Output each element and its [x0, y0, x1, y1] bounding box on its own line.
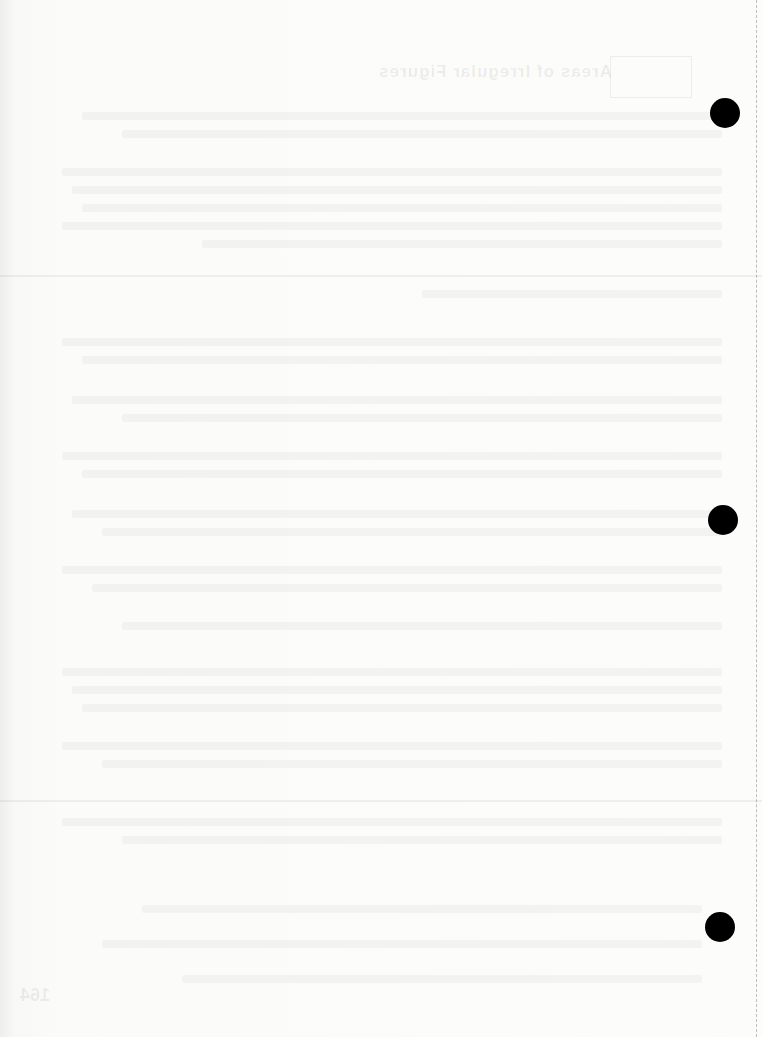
show-through-text-line — [72, 186, 722, 194]
page-edge-perforation — [756, 0, 757, 1037]
show-through-text-line — [72, 396, 722, 404]
show-through-text-line — [92, 584, 722, 592]
show-through-text-line — [82, 112, 722, 120]
show-through-text-line — [62, 668, 722, 676]
show-through-text-line — [182, 975, 702, 983]
show-through-page-number: 164 — [20, 985, 50, 1006]
show-through-text-line — [202, 240, 722, 248]
show-through-text-line — [102, 760, 722, 768]
show-through-text-line — [62, 742, 722, 750]
show-through-text-line — [102, 940, 702, 948]
punch-hole-top — [710, 98, 740, 128]
show-through-text-line — [122, 622, 722, 630]
show-through-text-line — [122, 836, 722, 844]
show-through-text-line — [142, 905, 702, 913]
show-through-text-line — [122, 130, 722, 138]
show-through-text-line — [62, 338, 722, 346]
punch-hole-middle — [708, 505, 738, 535]
punch-hole-bottom — [705, 912, 735, 942]
show-through-title: Areas of Irregular Figures — [378, 62, 612, 82]
reverse-side-show-through: Areas of Irregular Figures 164 — [0, 0, 762, 1037]
show-through-text-line — [422, 290, 722, 298]
show-through-text-line — [62, 818, 722, 826]
show-through-text-line — [72, 510, 722, 518]
show-through-text-line — [122, 414, 722, 422]
show-through-text-line — [82, 704, 722, 712]
show-through-rule — [0, 800, 762, 802]
show-through-text-line — [82, 470, 722, 478]
show-through-text-line — [72, 686, 722, 694]
show-through-title-box — [610, 56, 692, 98]
show-through-text-line — [102, 528, 722, 536]
show-through-text-line — [62, 566, 722, 574]
show-through-text-line — [82, 356, 722, 364]
show-through-rule — [0, 275, 762, 277]
show-through-text-line — [62, 222, 722, 230]
show-through-text-line — [62, 168, 722, 176]
scanned-page: Areas of Irregular Figures 164 — [0, 0, 762, 1037]
show-through-text-line — [62, 452, 722, 460]
show-through-text-line — [82, 204, 722, 212]
